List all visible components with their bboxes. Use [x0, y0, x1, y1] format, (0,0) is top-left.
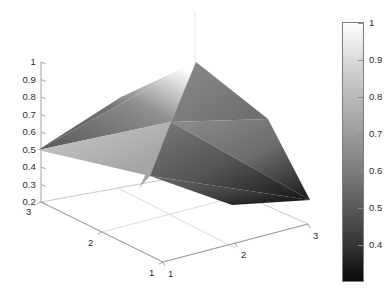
colorbar-tickmark-0-5: [358, 208, 363, 209]
colorbar[interactable]: 1 0.9 0.8 0.7 0.6 0.5 0.4: [342, 18, 385, 288]
z-tick-label-0-9: 0.9: [12, 75, 36, 85]
y-tick-label-2: 2: [88, 238, 93, 248]
z-tick-label-0-8: 0.8: [12, 92, 36, 102]
colorbar-label-0-9: 0.9: [369, 55, 382, 65]
figure-canvas: 1 0.9 0.8 0.7 0.6 0.5 0.4 0.3 0.2 3 2 1 …: [0, 0, 385, 296]
z-tick-label-0-6: 0.6: [12, 127, 36, 137]
colorbar-label-0-7: 0.7: [369, 129, 382, 139]
colorbar-tickmark-0-4: [358, 245, 363, 246]
z-tick-label-0-4: 0.4: [12, 162, 36, 172]
y-axis-ticks: [37, 202, 163, 264]
surface-3d-render: [0, 0, 330, 296]
colorbar-label-0-4: 0.4: [369, 240, 382, 250]
z-tick-label-0-2: 0.2: [12, 197, 36, 207]
x-tick-label-3: 3: [313, 231, 318, 241]
surface-mesh: [38, 62, 310, 205]
colorbar-label-0-8: 0.8: [369, 92, 382, 102]
colorbar-label-0-6: 0.6: [369, 166, 382, 176]
y-tick-label-1: 1: [149, 268, 154, 278]
z-tick-label-0-5: 0.5: [12, 145, 36, 155]
colorbar-label-0-5: 0.5: [369, 203, 382, 213]
x-tick-label-1: 1: [168, 269, 173, 279]
z-axis-ticks: [41, 62, 46, 204]
colorbar-gradient: [343, 23, 363, 281]
z-tick-label-0-7: 0.7: [12, 110, 36, 120]
z-tick-label-1: 1: [12, 57, 36, 67]
x-axis-ticks: [163, 224, 310, 266]
colorbar-bar: [342, 22, 364, 282]
colorbar-tickmark-0-6: [358, 171, 363, 172]
y-tick-label-3: 3: [26, 207, 31, 217]
colorbar-tickmark-0-7: [358, 134, 363, 135]
z-tick-label-0-3: 0.3: [12, 180, 36, 190]
colorbar-label-1: 1: [369, 18, 374, 28]
colorbar-tickmark-0-9: [358, 60, 363, 61]
colorbar-tickmark-1: [358, 23, 363, 24]
x-tick-label-2: 2: [241, 250, 246, 260]
colorbar-tickmark-0-8: [358, 97, 363, 98]
surface-plot-axes[interactable]: 1 0.9 0.8 0.7 0.6 0.5 0.4 0.3 0.2 3 2 1 …: [0, 0, 330, 296]
